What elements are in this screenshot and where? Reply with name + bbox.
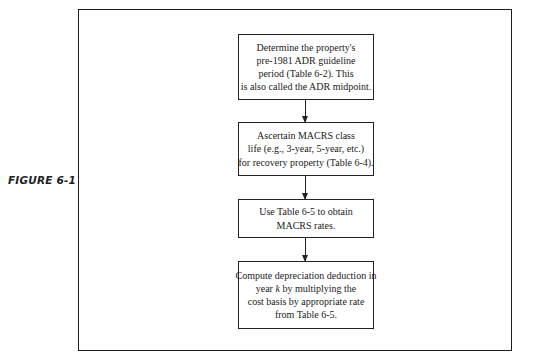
flow-step-1-line-4: is also called the ADR midpoint. [241, 80, 372, 93]
flow-step-4-year-word: year [256, 283, 273, 294]
flow-step-4-variable-k: k [275, 283, 279, 294]
flow-step-4-line-4: from Table 6-5. [236, 308, 377, 321]
arrow-down-icon [305, 238, 306, 261]
flow-step-2-line-1: Ascertain MACRS class [238, 129, 373, 142]
flow-step-3-obtain-macrs-rates: Use Table 6-5 to obtain MACRS rates. [238, 199, 374, 238]
flow-step-1-line-2: pre-1981 ADR guideline [241, 54, 372, 67]
arrow-down-icon [305, 176, 306, 199]
arrow-down-icon [305, 100, 306, 122]
flow-step-4-multiplying-text: by multiplying the [282, 283, 356, 294]
clipped-caption-text [82, 356, 552, 363]
flow-step-3-line-1: Use Table 6-5 to obtain [259, 205, 353, 218]
flow-step-3-line-2: MACRS rates. [259, 219, 353, 232]
flow-step-2-ascertain-macrs-class: Ascertain MACRS class life (e.g., 3-year… [238, 122, 374, 176]
flow-step-4-line-1: Compute depreciation deduction in [236, 269, 377, 282]
flow-step-4-line-3: cost basis by appropriate rate [236, 295, 377, 308]
flow-step-1-determine-adr-period: Determine the property's pre-1981 ADR gu… [238, 34, 374, 100]
flow-step-2-line-2: life (e.g., 3-year, 5-year, etc.) [238, 142, 373, 155]
flow-step-4-compute-depreciation: Compute depreciation deduction in year k… [238, 261, 374, 329]
flow-step-4-line-2: year k by multiplying the [236, 282, 377, 295]
flow-step-2-line-3: for recovery property (Table 6-4). [238, 156, 373, 169]
figure-label: FIGURE 6-1 [8, 174, 76, 186]
flow-step-1-line-1: Determine the property's [241, 41, 372, 54]
flow-step-1-line-3: period (Table 6-2). This [241, 67, 372, 80]
